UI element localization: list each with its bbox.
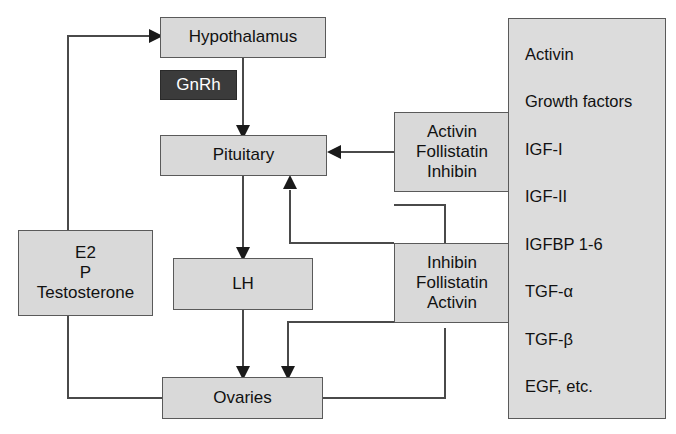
- edge-steroids-to-hypothalamus: [68, 36, 150, 230]
- node-pituitary-regulators-line-2: Follistatin: [416, 142, 488, 162]
- node-gnrh-label: GnRh: [176, 75, 220, 95]
- growth-factor-item: EGF, etc.: [525, 377, 665, 396]
- edge-ovarianreg-to-pituitary: [290, 190, 394, 243]
- edge-ovarianreg-to-ovaries: [288, 322, 394, 367]
- node-steroids-line-3: Testosterone: [37, 283, 134, 303]
- node-pituitary-regulators[interactable]: Activin Follistatin Inhibin: [394, 112, 510, 192]
- growth-factor-item: Activin: [525, 45, 665, 64]
- node-ovaries[interactable]: Ovaries: [162, 377, 323, 419]
- node-ovarian-regulators-line-2: Follistatin: [416, 273, 488, 293]
- node-steroids-line-1: E2: [75, 243, 96, 263]
- node-steroids[interactable]: E2 P Testosterone: [18, 230, 153, 316]
- growth-factor-panel: Activin Growth factors IGF-I IGF-II IGFB…: [508, 18, 666, 419]
- node-pituitary-label: Pituitary: [213, 145, 274, 165]
- node-pituitary-regulators-line-3: Inhibin: [427, 162, 477, 182]
- growth-factor-item: IGF-I: [525, 140, 665, 159]
- growth-factor-item: IGFBP 1-6: [525, 235, 665, 254]
- node-ovarian-regulators[interactable]: Inhibin Follistatin Activin: [394, 243, 510, 323]
- growth-factor-item: TGF-α: [525, 282, 665, 301]
- growth-factor-item: Growth factors: [525, 92, 665, 111]
- node-lh-label: LH: [232, 274, 254, 294]
- node-hypothalamus[interactable]: Hypothalamus: [160, 17, 326, 58]
- node-gnrh[interactable]: GnRh: [160, 70, 237, 100]
- arrowhead-pituitary-right: [327, 145, 341, 159]
- node-ovaries-label: Ovaries: [213, 388, 272, 408]
- node-hypothalamus-label: Hypothalamus: [189, 27, 298, 47]
- node-ovarian-regulators-line-3: Activin: [427, 293, 477, 313]
- edge-ovaries-to-regulators-upper: [394, 205, 445, 248]
- node-pituitary[interactable]: Pituitary: [160, 135, 327, 176]
- edge-ovaries-to-ovarianreg: [323, 328, 445, 398]
- node-steroids-line-2: P: [80, 263, 91, 283]
- growth-factor-item: IGF-II: [525, 187, 665, 206]
- edge-ovaries-to-steroids: [68, 316, 162, 398]
- diagram-canvas: Hypothalamus GnRh Pituitary LH Ovaries E…: [0, 0, 676, 434]
- node-lh[interactable]: LH: [173, 258, 313, 310]
- arrowhead-pituitary-bottom: [283, 175, 297, 189]
- growth-factor-item: TGF-β: [525, 330, 665, 349]
- node-pituitary-regulators-line-1: Activin: [427, 122, 477, 142]
- node-ovarian-regulators-line-1: Inhibin: [427, 253, 477, 273]
